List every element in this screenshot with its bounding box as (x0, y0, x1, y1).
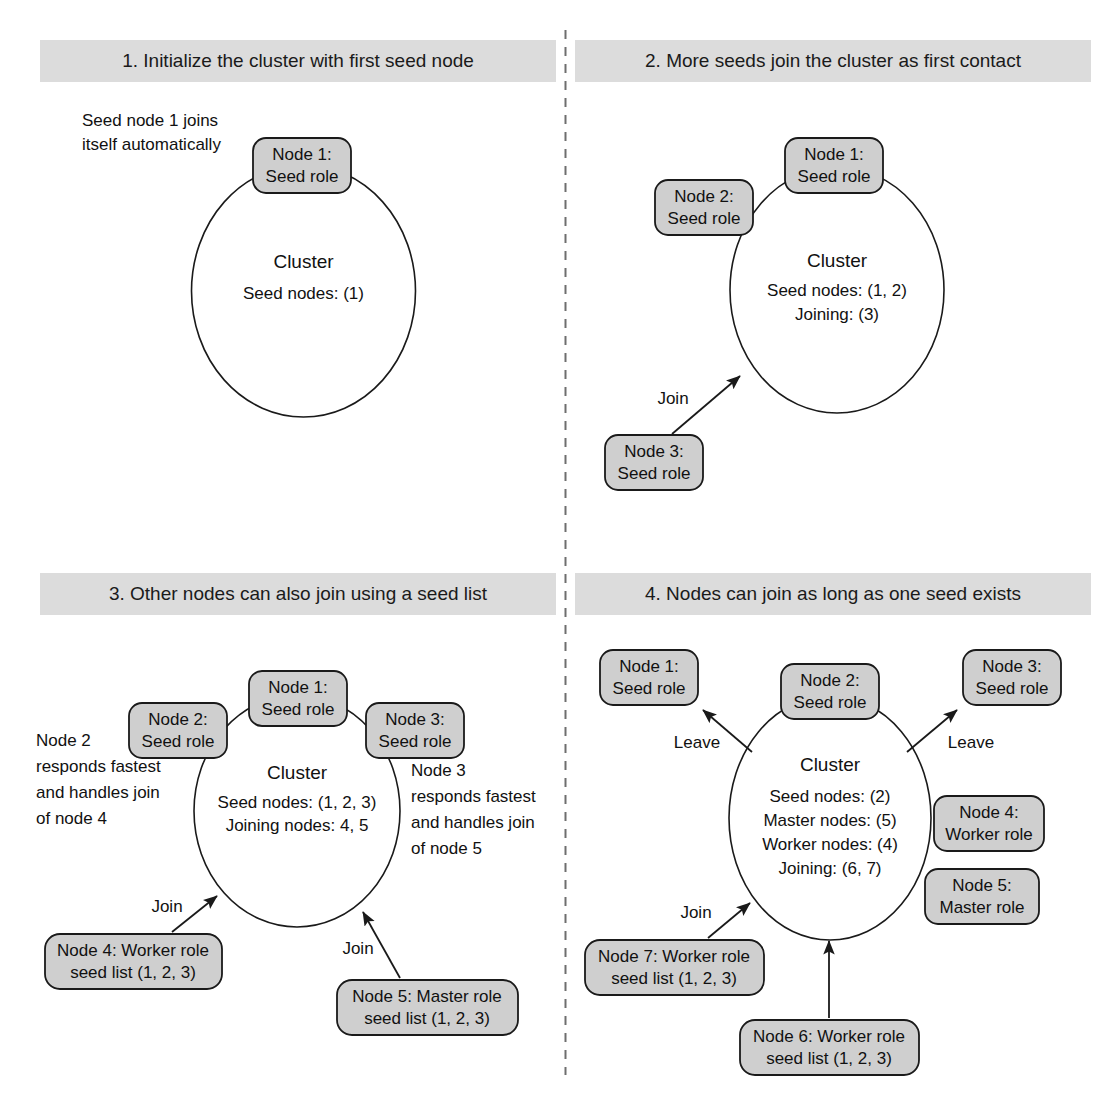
annot-node2-line-0: Node 2 (36, 731, 91, 750)
panel-2-node-3[interactable]: Node 3: Seed role (605, 435, 703, 490)
panel-3-node-1[interactable]: Node 1: Seed role (249, 671, 347, 726)
panel-2-node-2-line-1: Seed role (668, 209, 741, 228)
panel-3-join5-label: Join (342, 939, 373, 958)
annot-node2-line-1: responds fastest (36, 757, 161, 776)
panel-3-node-5[interactable]: Node 5: Master role seed list (1, 2, 3) (337, 980, 518, 1035)
panel-1-node-1-line-1: Seed role (266, 167, 339, 186)
panel-2-node-3-line-1: Seed role (618, 464, 691, 483)
panel-3-node-4[interactable]: Node 4: Worker role seed list (1, 2, 3) (45, 934, 222, 989)
panel-4-node-2-line-0: Node 2: (800, 671, 860, 690)
panel-3-node-4-line-0: Node 4: Worker role (57, 941, 209, 960)
panel-3-cluster-line-0: Seed nodes: (1, 2, 3) (218, 793, 377, 812)
annot-node3-line-2: and handles join (411, 813, 535, 832)
panel-3-title: 3. Other nodes can also join using a see… (109, 583, 488, 604)
panel-4-title: 4. Nodes can join as long as one seed ex… (645, 583, 1021, 604)
panel-4: 4. Nodes can join as long as one seed ex… (575, 573, 1091, 1075)
panel-1-node-1-line-0: Node 1: (272, 145, 332, 164)
panel-4-edge-join-7: Join (680, 903, 750, 938)
panel-4-node-5[interactable]: Node 5: Master role (925, 869, 1039, 924)
panel-3-node-2-line-0: Node 2: (148, 710, 208, 729)
diagram-stage: 1. Initialize the cluster with first see… (0, 0, 1119, 1104)
annot-node3-line-3: of node 5 (411, 839, 482, 858)
panel-4-node-7-line-0: Node 7: Worker role (598, 947, 750, 966)
panel-4-node-3[interactable]: Node 3: Seed role (963, 650, 1061, 705)
panel-3-node-3-line-0: Node 3: (385, 710, 445, 729)
panel-2-cluster-line-0: Seed nodes: (1, 2) (767, 281, 907, 300)
panel-2-cluster-label: Cluster (807, 250, 868, 271)
panel-4-cluster-line-1: Master nodes: (5) (763, 811, 896, 830)
panel-3-node-2-line-1: Seed role (142, 732, 215, 751)
panel-3-join4-label: Join (151, 897, 182, 916)
panel-2-node-1-line-1: Seed role (798, 167, 871, 186)
panel-3-edge-join-4: Join (151, 896, 217, 932)
panel-4-node-6-line-0: Node 6: Worker role (753, 1027, 905, 1046)
panel-4-leave1-label: Leave (674, 733, 720, 752)
panel-4-node-6[interactable]: Node 6: Worker role seed list (1, 2, 3) (740, 1020, 919, 1075)
panel-4-node-4-line-0: Node 4: (959, 803, 1019, 822)
panel-3-cluster-label: Cluster (267, 762, 328, 783)
panel-3-node-4-line-1: seed list (1, 2, 3) (70, 963, 196, 982)
panel-4-cluster-line-0: Seed nodes: (2) (770, 787, 891, 806)
panel-2-node-1[interactable]: Node 1: Seed role (785, 138, 883, 193)
panel-3-node-5-line-1: seed list (1, 2, 3) (364, 1009, 490, 1028)
panel-2-cluster-line-1: Joining: (3) (795, 305, 879, 324)
annot-seed1: Seed node 1 joins itself automatically (82, 111, 221, 154)
panel-4-node-2-line-1: Seed role (794, 693, 867, 712)
annot-node3: Node 3 responds fastest and handles join… (411, 761, 536, 858)
panel-1-cluster-line-0: Seed nodes: (1) (243, 284, 364, 303)
panel-3: 3. Other nodes can also join using a see… (36, 573, 556, 1035)
panel-2-join-label: Join (657, 389, 688, 408)
panel-4-node-1-line-1: Seed role (613, 679, 686, 698)
panel-4-node-4[interactable]: Node 4: Worker role (934, 796, 1044, 851)
panel-2-node-2-line-0: Node 2: (674, 187, 734, 206)
panel-4-node-6-line-1: seed list (1, 2, 3) (766, 1049, 892, 1068)
panel-4-node-3-line-1: Seed role (976, 679, 1049, 698)
panel-3-node-5-line-0: Node 5: Master role (352, 987, 501, 1006)
panel-2-title: 2. More seeds join the cluster as first … (645, 50, 1022, 71)
panel-3-node-3-line-1: Seed role (379, 732, 452, 751)
panel-4-node-5-line-0: Node 5: (952, 876, 1012, 895)
panel-4-join7-arrow (708, 903, 750, 938)
panel-4-join7-label: Join (680, 903, 711, 922)
panel-4-node-3-line-0: Node 3: (982, 657, 1042, 676)
annot-node3-line-0: Node 3 (411, 761, 466, 780)
annot-seed1-line-0: Seed node 1 joins (82, 111, 218, 130)
panel-3-node-2[interactable]: Node 2: Seed role (129, 703, 227, 758)
panel-2-edge-join-3: Join (657, 376, 740, 434)
panel-3-cluster-line-1: Joining nodes: 4, 5 (226, 816, 369, 835)
panel-4-cluster-line-3: Joining: (6, 7) (779, 859, 882, 878)
panel-4-node-7-line-1: seed list (1, 2, 3) (611, 969, 737, 988)
panel-3-node-3[interactable]: Node 3: Seed role (366, 703, 464, 758)
panel-1-node-1[interactable]: Node 1: Seed role (253, 138, 351, 193)
panel-4-cluster-line-2: Worker nodes: (4) (762, 835, 898, 854)
annot-node3-line-1: responds fastest (411, 787, 536, 806)
panel-4-node-4-line-1: Worker role (945, 825, 1033, 844)
panel-2-node-2[interactable]: Node 2: Seed role (655, 180, 753, 235)
panel-3-node-1-line-1: Seed role (262, 700, 335, 719)
panel-4-node-2[interactable]: Node 2: Seed role (781, 664, 879, 719)
panel-4-cluster-label: Cluster (800, 754, 861, 775)
panel-1-cluster-label: Cluster (273, 251, 334, 272)
cluster-lifecycle-diagram: 1. Initialize the cluster with first see… (0, 0, 1119, 1104)
panel-2-node-1-line-0: Node 1: (804, 145, 864, 164)
panel-4-edge-leave-3: Leave (907, 710, 994, 752)
panel-4-node-1-line-0: Node 1: (619, 657, 679, 676)
annot-node2-line-3: of node 4 (36, 809, 107, 828)
panel-1-title: 1. Initialize the cluster with first see… (122, 50, 474, 71)
panel-4-leave3-label: Leave (948, 733, 994, 752)
panel-4-edge-leave-1: Leave (674, 710, 752, 752)
panel-2-node-3-line-0: Node 3: (624, 442, 684, 461)
panel-4-node-5-line-1: Master role (939, 898, 1024, 917)
panel-3-node-1-line-0: Node 1: (268, 678, 328, 697)
panel-4-node-1[interactable]: Node 1: Seed role (600, 650, 698, 705)
panel-3-edge-join-5: Join (342, 912, 400, 978)
panel-4-node-7[interactable]: Node 7: Worker role seed list (1, 2, 3) (585, 940, 764, 995)
panel-2: 2. More seeds join the cluster as first … (575, 40, 1091, 490)
panel-1: 1. Initialize the cluster with first see… (40, 40, 556, 417)
annot-seed1-line-1: itself automatically (82, 135, 221, 154)
annot-node2-line-2: and handles join (36, 783, 160, 802)
